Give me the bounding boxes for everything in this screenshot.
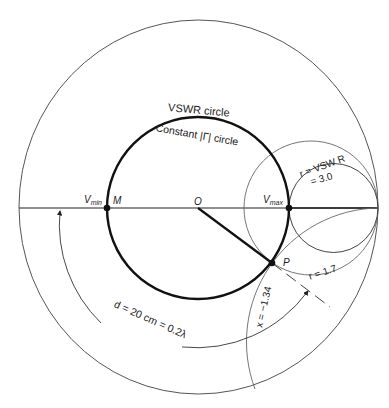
p-label: P	[283, 257, 290, 268]
distance-label: d = 20 cm = 0.2λ	[112, 298, 189, 341]
r-1.7-label: r = 1.7	[307, 262, 338, 281]
o-label: O	[194, 196, 202, 207]
smith-chart-diagram: VSWR circle Constant |Γ| circle Vmin M O…	[0, 0, 389, 408]
vmin-label: Vmin	[84, 194, 102, 206]
m-label: M	[113, 195, 122, 206]
point-vmax	[286, 205, 293, 212]
point-M-vmin	[104, 205, 111, 212]
constant-gamma-label: Constant |Γ| circle	[155, 121, 240, 147]
point-P	[269, 260, 276, 267]
outer-unit-circle	[19, 20, 378, 394]
vmax-label: Vmax	[263, 194, 283, 206]
radius-line-OP	[198, 208, 272, 263]
distance-arc-left	[59, 211, 101, 323]
